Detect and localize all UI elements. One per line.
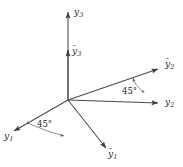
axis-label-y1-base: y (4, 132, 9, 141)
axis-label-y2: y2 (165, 98, 174, 108)
angle-label-left: 45° (37, 120, 52, 129)
axis-label-y3bar-accent: ¯ (73, 45, 77, 53)
axis-label-y3bar-sub: 3 (77, 50, 81, 58)
axis-label-y1-sub: 1 (9, 135, 13, 143)
axis-label-y3-sub: 3 (79, 11, 83, 19)
axis-line-y2 (68, 100, 158, 103)
axis-label-y2bar-sub: 2 (170, 63, 174, 71)
axis-rotation-figure: y3 y¯3 y¯2 y2 y1 y¯1 45° 45° (0, 0, 183, 167)
axis-label-y3bar-base: y¯ (72, 47, 77, 56)
axis-label-y1bar-base: y¯ (108, 150, 113, 159)
axis-line-y2bar (68, 69, 158, 100)
axis-label-y1bar-accent: ¯ (109, 148, 113, 156)
axis-label-y2bar: y¯2 (165, 60, 174, 70)
axis-diagram-svg (0, 0, 183, 167)
axis-label-y3bar: y¯3 (72, 47, 81, 57)
axis-label-y1: y1 (4, 132, 13, 142)
angle-label-right: 45° (122, 87, 137, 96)
axis-label-y3-base: y (74, 8, 79, 17)
axis-label-y2-base: y (165, 98, 170, 107)
axis-label-y2-sub: 2 (170, 101, 174, 109)
axis-label-y3: y3 (74, 8, 83, 18)
axis-label-y1bar-sub: 1 (113, 153, 117, 161)
axis-label-y2bar-accent: ¯ (166, 58, 170, 66)
axis-label-y2bar-base: y¯ (165, 60, 170, 69)
axis-line-y1bar (68, 100, 106, 148)
axis-label-y1bar: y¯1 (108, 150, 117, 160)
